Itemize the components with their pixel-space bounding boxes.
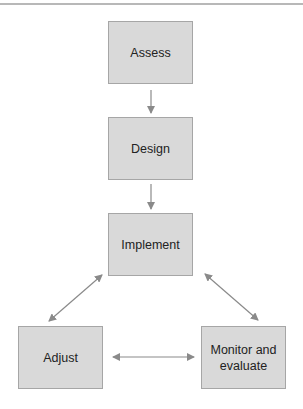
arrow-implement-monitor (205, 274, 258, 320)
node-implement: Implement (108, 213, 193, 276)
node-assess: Assess (108, 21, 193, 84)
node-label: Monitor and evaluate (208, 342, 279, 374)
node-adjust: Adjust (18, 326, 103, 389)
node-monitor-and-evaluate: Monitor and evaluate (201, 326, 286, 389)
node-label: Adjust (43, 350, 78, 366)
arrow-implement-adjust (49, 275, 102, 321)
node-design: Design (108, 117, 193, 180)
node-label: Assess (130, 45, 170, 61)
node-label: Design (131, 141, 170, 157)
node-label: Implement (121, 237, 179, 253)
